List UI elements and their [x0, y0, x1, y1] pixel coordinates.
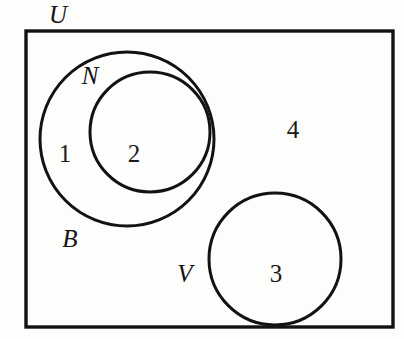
- region-number-3: 3: [270, 260, 283, 287]
- region-number-1: 1: [59, 140, 72, 167]
- venn-diagram-canvas: U B N V 1 2 3 4: [0, 0, 404, 339]
- region-number-4: 4: [287, 116, 300, 143]
- diagram-background: [0, 0, 404, 339]
- region-number-2: 2: [128, 140, 141, 167]
- set-label-b: B: [62, 225, 77, 252]
- set-label-n: N: [81, 62, 100, 89]
- venn-diagram-figure: U B N V 1 2 3 4: [0, 0, 404, 339]
- set-label-u: U: [49, 1, 69, 28]
